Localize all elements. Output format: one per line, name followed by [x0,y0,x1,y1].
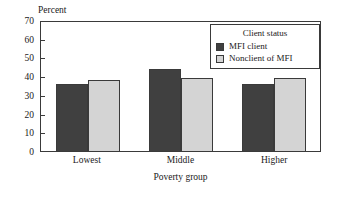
bar [181,78,213,151]
y-axis-tick-mark [41,115,45,116]
legend-item-mfi-client: MFI client [216,41,314,52]
bar-group [41,22,134,151]
legend-title: Client status [216,28,314,39]
legend-swatch-icon [216,55,224,63]
bar [242,84,274,151]
x-axis-tick-labels: LowestMiddleHigher [40,155,321,166]
legend-swatch-icon [216,43,224,51]
x-axis-tick-label: Lowest [40,155,134,166]
legend-item-label: Nonclient of MFI [229,53,293,64]
y-axis-tick-mark [41,40,45,41]
legend: Client status MFI client Nonclient of MF… [210,24,320,69]
bar [56,84,88,151]
x-axis-tick-label: Middle [134,155,228,166]
y-axis-title: Percent [38,5,67,16]
y-axis-tick-label: 60 [0,35,34,45]
bar [149,69,181,151]
y-axis-tick-label: 50 [0,53,34,63]
legend-item-label: MFI client [229,41,267,52]
y-axis-tick-label: 70 [0,16,34,26]
bar [88,80,120,151]
y-axis-tick-label: 0 [0,147,34,157]
y-axis-tick-mark [41,58,45,59]
y-axis-tick-mark [41,133,45,134]
y-axis-tick-label: 30 [0,91,34,101]
y-axis-tick-mark [41,77,45,78]
y-axis-tick-mark [41,96,45,97]
bar-chart: Percent 706050403020100 LowestMiddleHigh… [0,0,345,203]
bar [274,78,306,151]
x-axis-tick-label: Higher [227,155,321,166]
y-axis-tick-label: 10 [0,128,34,138]
y-axis-tick-label: 40 [0,72,34,82]
legend-item-nonclient-of-mfi: Nonclient of MFI [216,53,314,64]
x-axis-title: Poverty group [40,172,321,183]
y-axis-tick-label: 20 [0,110,34,120]
